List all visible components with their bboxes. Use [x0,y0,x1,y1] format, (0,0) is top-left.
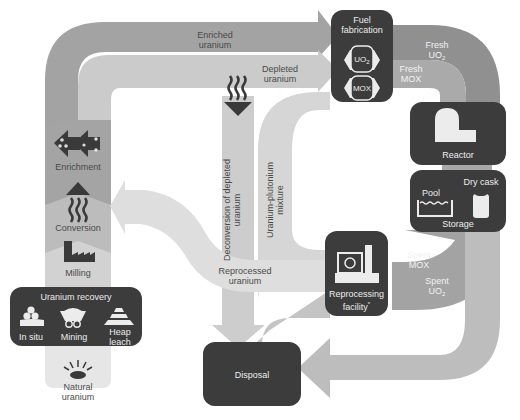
spent-mox-label: Spent MOX [402,250,436,270]
heap-leach-icon [104,308,134,325]
storage-title: Storage [410,219,506,229]
disposal-box[interactable]: Disposal [203,342,301,406]
reprocessing-title-2: facility* [325,299,388,312]
reactor-title: Reactor [410,150,506,160]
conversion-label: Conversion [48,223,108,233]
mining-cart-icon [60,308,86,327]
fuel-fabrication-box[interactable]: Fuel fabrication UO2 MOX [331,10,393,102]
reprocessing-to-disposal-flow [248,290,330,350]
in-situ-icon [20,306,44,326]
reprocessing-title-1: Reprocessing [325,289,388,299]
enriched-uranium-label: Enriched uranium [190,30,240,50]
storage-box[interactable]: Dry cask Pool Storage [410,170,506,232]
uranium-plutonium-label: Uranium-plutonium mixture [265,155,285,245]
uo2-pellet-label: UO2 [331,55,393,67]
heap-leach-label: Heap leach [103,327,137,347]
mining-label: Mining [57,332,91,342]
in-situ-label: In situ [14,332,48,342]
deconversion-label: Deconversion of depleted uranium [222,150,242,270]
spent-uo2-text: Spent UO2 [420,276,454,299]
fresh-mox-label: Fresh MOX [394,64,428,84]
disposal-title: Disposal [203,370,301,380]
dry-cask-icon [473,192,489,218]
natural-uranium-text: Natural uranium [58,382,98,402]
fresh-uo2-label: Fresh UO2 [420,40,454,63]
depleted-uranium-label: Depleted uranium [255,64,305,84]
uranium-recovery-box[interactable]: Uranium recovery In situ Mining Heap lea… [10,287,142,346]
reactor-box[interactable]: Reactor [410,102,506,165]
mox-pellet-label: MOX [331,84,393,94]
milling-label: Milling [48,268,108,278]
reprocessing-facility-box[interactable]: Reprocessing facility* [325,231,388,316]
spent-uo2-label: Spent UO2 [420,276,454,299]
enrichment-label: Enrichment [48,162,108,172]
fresh-uo2-text: Fresh UO2 [420,40,454,63]
natural-uranium-label: Natural uranium [48,382,108,402]
pool-icon [418,200,452,216]
reprocessed-uranium-label: Reprocessed uranium [213,266,277,286]
